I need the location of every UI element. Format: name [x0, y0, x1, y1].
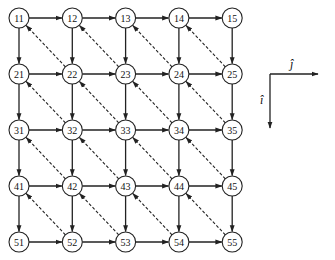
node-22: 22: [62, 64, 82, 84]
node-11: 11: [9, 8, 29, 28]
edge-dependency-54-43: [133, 194, 172, 235]
node-label: 25: [227, 69, 237, 80]
node-label: 52: [67, 237, 77, 248]
edge-dependency-22-11: [26, 26, 65, 67]
node-label: 41: [14, 181, 24, 192]
node-label: 32: [67, 125, 77, 136]
node-24: 24: [169, 64, 189, 84]
node-15: 15: [222, 8, 242, 28]
node-44: 44: [169, 176, 189, 196]
edge-dependency-53-42: [80, 194, 119, 235]
edge-dependency-24-13: [133, 26, 172, 67]
node-52: 52: [62, 232, 82, 252]
node-label: 13: [121, 13, 131, 24]
node-label: 12: [67, 13, 77, 24]
edge-dependency-33-22: [80, 82, 119, 123]
edge-dependency-35-24: [186, 82, 225, 123]
node-32: 32: [62, 120, 82, 140]
node-33: 33: [116, 120, 136, 140]
node-label: 35: [227, 125, 237, 136]
node-label: 43: [121, 181, 131, 192]
edge-dependency-34-23: [133, 82, 172, 123]
node-51: 51: [9, 232, 29, 252]
node-45: 45: [222, 176, 242, 196]
node-label: 11: [14, 13, 24, 24]
node-12: 12: [62, 8, 82, 28]
node-label: 14: [174, 13, 184, 24]
node-34: 34: [169, 120, 189, 140]
node-41: 41: [9, 176, 29, 196]
edge-dependency-43-32: [80, 138, 119, 179]
edge-dependency-52-41: [26, 194, 65, 235]
node-label: 44: [174, 181, 184, 192]
edge-dependency-45-34: [186, 138, 225, 179]
j-axis-label: ĵ: [288, 57, 294, 71]
node-55: 55: [222, 232, 242, 252]
node-label: 34: [174, 125, 184, 136]
node-53: 53: [116, 232, 136, 252]
edge-dependency-44-33: [133, 138, 172, 179]
node-label: 15: [227, 13, 237, 24]
edge-dependency-55-44: [186, 194, 225, 235]
edge-dependency-23-12: [80, 26, 119, 67]
node-label: 22: [67, 69, 77, 80]
node-label: 53: [121, 237, 131, 248]
edge-dependency-25-14: [186, 26, 225, 67]
node-label: 45: [227, 181, 237, 192]
node-42: 42: [62, 176, 82, 196]
node-label: 55: [227, 237, 237, 248]
node-14: 14: [169, 8, 189, 28]
node-25: 25: [222, 64, 242, 84]
edge-dependency-32-21: [26, 82, 65, 123]
node-label: 21: [14, 69, 24, 80]
node-13: 13: [116, 8, 136, 28]
node-label: 54: [174, 237, 184, 248]
node-21: 21: [9, 64, 29, 84]
i-axis-label: î: [260, 93, 264, 107]
node-31: 31: [9, 120, 29, 140]
node-label: 31: [14, 125, 24, 136]
edge-dependency-42-31: [26, 138, 65, 179]
node-label: 24: [174, 69, 184, 80]
node-label: 33: [121, 125, 131, 136]
node-label: 42: [67, 181, 77, 192]
node-label: 51: [14, 237, 24, 248]
node-54: 54: [169, 232, 189, 252]
node-23: 23: [116, 64, 136, 84]
node-43: 43: [116, 176, 136, 196]
node-label: 23: [121, 69, 131, 80]
node-35: 35: [222, 120, 242, 140]
axis-indicator: ĵ î: [260, 57, 318, 128]
dependency-grid-diagram: 1112131415212223242531323334354142434445…: [0, 0, 335, 260]
